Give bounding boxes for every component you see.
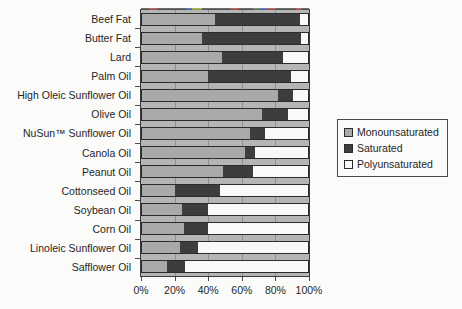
- segment-polyunsaturated: [300, 14, 308, 25]
- category-label-safflower-oil: Safflower Oil: [0, 258, 135, 277]
- segment-polyunsaturated: [288, 109, 308, 120]
- category-label-linoleic-sunflower-oil: Linoleic Sunflower Oil: [0, 239, 135, 258]
- segment-monounsaturated: [142, 261, 167, 272]
- legend-label: Monounsaturated: [357, 126, 439, 138]
- segment-monounsaturated: [142, 166, 223, 177]
- bar-row-beef-fat: [141, 10, 309, 29]
- stacked-bar-soybean-oil: [141, 203, 309, 216]
- segment-saturated: [222, 52, 283, 63]
- segment-monounsaturated: [142, 52, 222, 63]
- segment-polyunsaturated: [208, 223, 308, 234]
- x-tick-label-80: 80%: [265, 284, 286, 296]
- category-axis: Beef FatButter FatLardPalm OilHigh Oleic…: [0, 9, 135, 277]
- bar-row-safflower-oil: [141, 257, 309, 276]
- segment-saturated: [180, 242, 198, 253]
- x-tick-60: [242, 277, 243, 281]
- segment-saturated: [262, 109, 289, 120]
- segment-saturated: [184, 223, 209, 234]
- legend-item-saturated: Saturated: [344, 142, 439, 154]
- stacked-bar-nusun-sunflower-oil: [141, 127, 309, 140]
- category-label-palm-oil: Palm Oil: [0, 66, 135, 85]
- bar-row-peanut-oil: [141, 162, 309, 181]
- segment-monounsaturated: [142, 14, 215, 25]
- x-axis-labels: 0%20%40%60%80%100%: [141, 284, 309, 298]
- segment-monounsaturated: [142, 204, 182, 215]
- stacked-bar-cottonseed-oil: [141, 184, 309, 197]
- polyunsaturated-swatch-icon: [344, 160, 353, 169]
- x-tick-label-0: 0%: [133, 284, 148, 296]
- segment-monounsaturated: [142, 147, 245, 158]
- stacked-bar-palm-oil: [141, 70, 309, 83]
- segment-polyunsaturated: [301, 33, 308, 44]
- category-label-olive-oil: Olive Oil: [0, 105, 135, 124]
- stacked-bar-butter-fat: [141, 32, 309, 45]
- x-tick-20: [175, 277, 176, 281]
- bar-row-lard: [141, 48, 309, 67]
- legend-label: Polyunsaturated: [357, 158, 433, 170]
- segment-monounsaturated: [142, 242, 180, 253]
- segment-saturated: [245, 147, 255, 158]
- segment-saturated: [202, 33, 302, 44]
- category-label-cottonseed-oil: Cottonseed Oil: [0, 181, 135, 200]
- x-tick-label-40: 40%: [198, 284, 219, 296]
- segment-saturated: [250, 128, 265, 139]
- x-tick-label-100: 100%: [296, 284, 323, 296]
- segment-monounsaturated: [142, 90, 278, 101]
- category-label-soybean-oil: Soybean Oil: [0, 200, 135, 219]
- saturated-swatch-icon: [344, 144, 353, 153]
- category-label-high-oleic-sunflower-oil: High Oleic Sunflower Oil: [0, 86, 135, 105]
- segment-saturated: [223, 166, 253, 177]
- stacked-bar-canola-oil: [141, 146, 309, 159]
- segment-polyunsaturated: [185, 261, 308, 272]
- bar-row-linoleic-sunflower-oil: [141, 238, 309, 257]
- x-tick-80: [275, 277, 276, 281]
- bar-row-corn-oil: [141, 219, 309, 238]
- segment-saturated: [208, 71, 291, 82]
- x-tick-0: [141, 277, 142, 281]
- segment-monounsaturated: [142, 71, 208, 82]
- stacked-bar-lard: [141, 51, 309, 64]
- x-tick-label-60: 60%: [231, 284, 252, 296]
- bar-row-soybean-oil: [141, 200, 309, 219]
- category-label-beef-fat: Beef Fat: [0, 9, 135, 28]
- fat-composition-chart: Beef FatButter FatLardPalm OilHigh Oleic…: [0, 0, 462, 309]
- bar-row-olive-oil: [141, 105, 309, 124]
- segment-polyunsaturated: [283, 52, 308, 63]
- scan-artifact-strip: [141, 8, 309, 10]
- x-tick-label-20: 20%: [164, 284, 185, 296]
- segment-polyunsaturated: [253, 166, 308, 177]
- x-axis-ticks: [141, 277, 309, 281]
- segment-polyunsaturated: [293, 90, 308, 101]
- category-label-lard: Lard: [0, 47, 135, 66]
- bar-row-butter-fat: [141, 29, 309, 48]
- segment-monounsaturated: [142, 223, 184, 234]
- segment-saturated: [175, 185, 220, 196]
- bar-row-nusun-sunflower-oil: [141, 124, 309, 143]
- monounsaturated-swatch-icon: [344, 128, 353, 137]
- bar-row-cottonseed-oil: [141, 181, 309, 200]
- stacked-bar-safflower-oil: [141, 260, 309, 273]
- x-tick-40: [208, 277, 209, 281]
- bar-row-high-oleic-sunflower-oil: [141, 86, 309, 105]
- segment-saturated: [278, 90, 293, 101]
- legend-item-polyunsaturated: Polyunsaturated: [344, 158, 439, 170]
- x-tick-100: [309, 277, 310, 281]
- segment-saturated: [182, 204, 209, 215]
- stacked-bar-beef-fat: [141, 13, 309, 26]
- legend-item-monounsaturated: Monounsaturated: [344, 126, 439, 138]
- bar-row-canola-oil: [141, 143, 309, 162]
- category-label-butter-fat: Butter Fat: [0, 28, 135, 47]
- stacked-bar-peanut-oil: [141, 165, 309, 178]
- plot-rows: [141, 10, 309, 276]
- category-label-peanut-oil: Peanut Oil: [0, 162, 135, 181]
- category-label-nusun-sunflower-oil: NuSun™ Sunflower Oil: [0, 124, 135, 143]
- bar-row-palm-oil: [141, 67, 309, 86]
- segment-saturated: [215, 14, 300, 25]
- stacked-bar-olive-oil: [141, 108, 309, 121]
- legend: Monounsaturated Saturated Polyunsaturate…: [337, 119, 448, 177]
- segment-monounsaturated: [142, 109, 262, 120]
- segment-polyunsaturated: [255, 147, 308, 158]
- stacked-bar-corn-oil: [141, 222, 309, 235]
- plot-area: [140, 9, 310, 277]
- category-label-canola-oil: Canola Oil: [0, 143, 135, 162]
